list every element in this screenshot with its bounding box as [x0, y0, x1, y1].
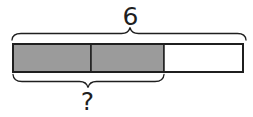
top-brace — [12, 28, 246, 41]
bar-segment-3-unshaded — [164, 44, 243, 72]
unknown-value-label: ? — [81, 87, 94, 116]
bar-segment-1-shaded — [13, 44, 91, 72]
tape-diagram-svg: 6 ? — [0, 0, 253, 117]
tape-diagram: 6 ? — [0, 0, 253, 117]
bar-segment-2-shaded — [91, 44, 164, 72]
bar — [13, 44, 243, 72]
total-value-label: 6 — [123, 2, 139, 31]
bottom-brace — [13, 75, 164, 88]
